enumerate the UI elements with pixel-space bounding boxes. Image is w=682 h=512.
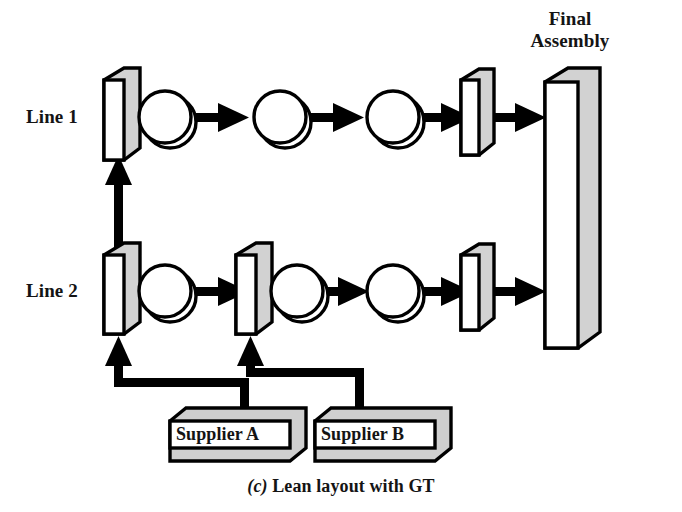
buffer-line2-mid [236,243,272,334]
arrow-l1-4 [489,103,546,132]
connector-line2-to-line1 [105,155,132,255]
buffer-line1-output [461,69,494,155]
final-assembly-block [545,68,600,348]
arrow-l2-4 [489,277,546,306]
label-line-2: Line 2 [26,280,78,302]
label-final-assembly-line1: Final [510,8,630,30]
machine-l1-1 [139,91,196,148]
machine-l1-2 [254,91,311,148]
line-1-group [104,68,546,160]
machine-l2-2 [271,265,328,322]
line-2-group [104,243,546,334]
figure-caption: (c) Lean layout with GT [0,476,682,497]
label-final-assembly-line2: Assembly [510,30,630,52]
label-supplier-a: Supplier A [176,424,288,445]
machine-l2-1 [139,265,196,322]
machine-l2-3 [367,265,424,322]
label-line-1: Line 1 [26,106,78,128]
figure-lean-layout-with-gt: Line 1 Line 2 Final Assembly Supplier A … [0,0,682,512]
buffer-line2-input [104,243,140,334]
label-supplier-b: Supplier B [321,424,433,445]
machine-l1-3 [367,91,424,148]
buffer-line1-input [104,68,140,160]
caption-text: Lean layout with GT [268,476,435,496]
buffer-line2-output [461,244,494,330]
caption-prefix: (c) [247,476,267,496]
